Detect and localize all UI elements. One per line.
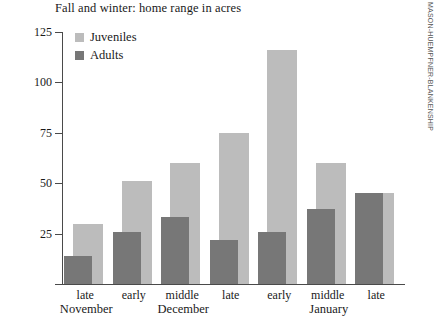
bar-adults <box>307 209 335 284</box>
legend-item-juveniles: Juveniles <box>75 28 137 46</box>
credit-label: MASON-HUEMPFNER-BLANKENSHIP <box>427 2 434 131</box>
month-label-december: December <box>142 302 225 317</box>
legend-swatch-juveniles <box>75 33 84 42</box>
bar-adults <box>258 232 286 284</box>
y-tick-label-75: 75 <box>0 127 52 139</box>
x-axis-label-6: late <box>348 288 405 303</box>
y-tick-label-100: 100 <box>0 76 52 88</box>
legend-label-juveniles: Juveniles <box>90 31 137 44</box>
y-tick-50 <box>55 183 63 184</box>
bar-adults <box>64 256 92 284</box>
month-label-november: November <box>45 302 128 317</box>
bar-adults <box>161 217 189 284</box>
legend-item-adults: Adults <box>75 46 137 64</box>
y-tick-label-25: 25 <box>0 228 52 240</box>
y-tick-75 <box>55 133 63 134</box>
bar-adults <box>355 193 383 284</box>
credit-text: MASON-HUEMPFNER-BLANKENSHIP <box>423 2 435 152</box>
x-axis-line <box>55 284 405 285</box>
legend-swatch-adults <box>75 51 84 60</box>
month-label-january: January <box>288 302 371 317</box>
legend-label-adults: Adults <box>90 49 123 62</box>
bar-adults <box>113 232 141 284</box>
y-axis-line <box>62 32 63 285</box>
y-tick-100 <box>55 82 63 83</box>
y-tick-label-125: 125 <box>0 26 52 38</box>
chart-title: Fall and winter: home range in acres <box>55 1 241 16</box>
y-tick-label-50: 50 <box>0 177 52 189</box>
y-tick-25 <box>55 234 63 235</box>
y-tick-125 <box>55 32 63 33</box>
bar-adults <box>210 240 238 284</box>
chart-legend: Juveniles Adults <box>75 28 137 64</box>
